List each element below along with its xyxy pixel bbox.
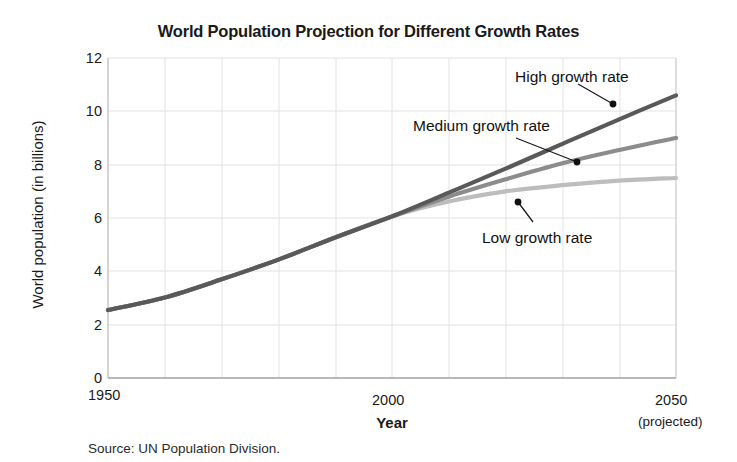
annotation-marker-dot xyxy=(574,159,581,166)
annotation-marker-dot xyxy=(610,101,617,108)
chart-figure: World Population Projection for Differen… xyxy=(0,0,737,462)
annotation-leader-line xyxy=(578,84,613,104)
annotation-label-high-growth-rate: High growth rate xyxy=(515,68,629,86)
source-note: Source: UN Population Division. xyxy=(88,441,280,456)
annotation-label-medium-growth-rate: Medium growth rate xyxy=(413,117,550,135)
annotation-leader-line xyxy=(518,202,533,222)
annotation-marker-dot xyxy=(515,199,522,206)
annotation-label-low-growth-rate: Low growth rate xyxy=(482,229,592,247)
